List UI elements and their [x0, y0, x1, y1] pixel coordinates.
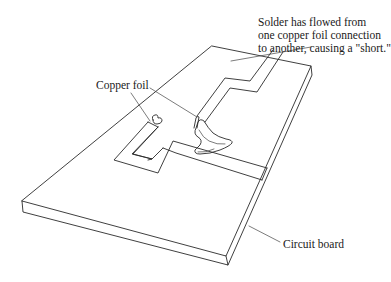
upper-trace-inner — [205, 52, 283, 122]
short-annotation-line-2: one copper foil connection — [258, 29, 391, 42]
circuit-board-label: Circuit board — [283, 238, 344, 251]
short-annotation-line-1: Solder has flowed from — [258, 16, 391, 29]
left-trace-outer — [114, 122, 267, 173]
copper-foil-traces — [114, 50, 283, 180]
leader-circuit-board — [249, 226, 280, 242]
short-annotation: Solder has flowed from one copper foil c… — [258, 16, 391, 55]
board-front-edge — [22, 201, 228, 265]
leader-copper-foil-right — [150, 88, 197, 117]
solder-blob-left — [152, 115, 162, 124]
upper-trace-outer — [197, 50, 273, 116]
left-trace-end — [148, 122, 158, 127]
left-trace-inner — [132, 127, 163, 159]
leader-copper-foil-left — [131, 93, 150, 121]
circuit-board — [22, 46, 312, 265]
copper-foil-label: Copper foil — [96, 79, 149, 92]
board-right-edge — [228, 66, 312, 265]
board-top-face — [22, 46, 311, 256]
short-annotation-line-3: to another, causing a "short." — [258, 42, 391, 55]
